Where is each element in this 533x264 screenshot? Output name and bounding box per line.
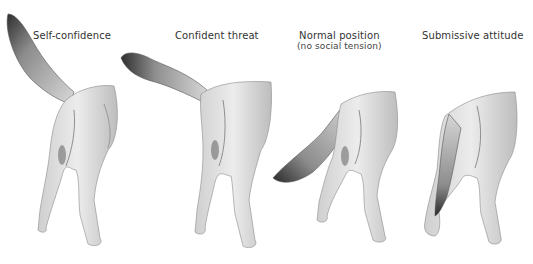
tail	[7, 14, 74, 104]
wolf-illustration-normal-position	[265, 0, 410, 264]
panel-submissive-attitude: Submissive attitude	[405, 0, 533, 264]
panel-normal-position: Normal position (no social tension)	[265, 0, 410, 264]
hindquarters	[195, 82, 272, 248]
wolf-illustration-submissive-attitude	[405, 0, 533, 264]
wolf-illustration-confident-threat	[115, 0, 275, 264]
tail	[121, 53, 207, 102]
hindquarters	[317, 92, 398, 243]
hindquarters	[424, 92, 517, 244]
panel-confident-threat: Confident threat	[115, 0, 275, 264]
